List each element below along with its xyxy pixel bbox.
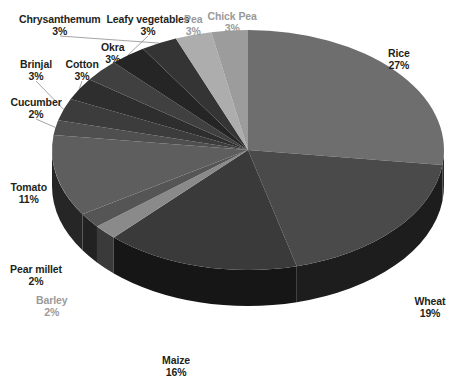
- pie-slices: [52, 30, 444, 270]
- pie-label-value: 2%: [11, 109, 62, 121]
- pie-label-brinjal: Brinjal3%: [20, 59, 52, 83]
- pie-slice-rice[interactable]: [248, 30, 444, 165]
- pie-label-rice: Rice27%: [388, 48, 410, 72]
- pie-label-value: 3%: [19, 26, 101, 38]
- pie-label-value: 27%: [388, 60, 410, 72]
- pie-label-wheat: Wheat19%: [415, 296, 446, 320]
- pie-label-okra: Okra3%: [101, 42, 125, 66]
- pie-label-value: 3%: [20, 71, 52, 83]
- pie-label-value: 3%: [208, 23, 257, 35]
- pie-label-name: Cucumber: [11, 97, 62, 109]
- pie-label-value: 3%: [184, 26, 202, 38]
- pie-label-name: Chrysanthemum: [19, 14, 101, 26]
- pie-label-tomato: Tomato11%: [11, 182, 48, 206]
- pie-label-value: 16%: [162, 367, 190, 379]
- pie-label-cucumber: Cucumber2%: [11, 97, 62, 121]
- pie-label-name: Okra: [101, 42, 125, 54]
- pie-label-pear-millet: Pear millet2%: [10, 264, 62, 288]
- pie-label-name: Pea: [184, 14, 202, 26]
- pie-label-name: Tomato: [11, 182, 48, 194]
- pie-label-value: 3%: [66, 71, 99, 83]
- pie-label-leafy-vegetables: Leafy vegetables3%: [107, 14, 190, 38]
- pie-label-name: Maize: [162, 355, 190, 367]
- pie-label-value: 2%: [10, 276, 62, 288]
- pie-label-maize: Maize16%: [162, 355, 190, 379]
- pie-label-name: Chick Pea: [208, 11, 257, 23]
- pie-label-name: Brinjal: [20, 59, 52, 71]
- pie-label-barley: Barley2%: [36, 295, 68, 319]
- pie-chart: Rice27%Wheat19%Maize16%Barley2%Pear mill…: [0, 0, 471, 388]
- pie-label-value: 11%: [11, 194, 48, 206]
- pie-label-value: 2%: [36, 307, 68, 319]
- pie-label-name: Wheat: [415, 296, 446, 308]
- pie-label-name: Pear millet: [10, 264, 62, 276]
- pie-label-value: 3%: [107, 26, 190, 38]
- pie-label-value: 3%: [101, 54, 125, 66]
- pie-label-value: 19%: [415, 308, 446, 320]
- pie-label-name: Barley: [36, 295, 68, 307]
- pie-label-name: Rice: [388, 48, 410, 60]
- pie-label-cotton: Cotton3%: [66, 59, 99, 83]
- pie-label-chick-pea: Chick Pea3%: [208, 11, 257, 35]
- pie-label-chrysanthemum: Chrysanthemum3%: [19, 14, 101, 38]
- pie-label-pea: Pea3%: [184, 14, 202, 38]
- pie-label-name: Cotton: [66, 59, 99, 71]
- pie-label-name: Leafy vegetables: [107, 14, 190, 26]
